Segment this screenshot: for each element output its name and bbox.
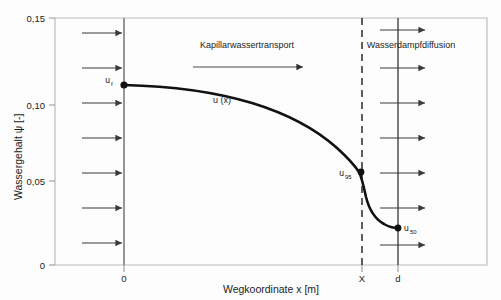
curve-u-of-x bbox=[124, 85, 398, 228]
zone-label-vapour-diffusion: Wasserdampfdiffusion bbox=[367, 40, 456, 50]
zone-label-capillary: Kapillarwassertransport bbox=[200, 40, 295, 50]
x-tick-label-X: X bbox=[359, 273, 366, 284]
x-axis-ticks bbox=[124, 265, 398, 272]
y-tick-label-010: 0,10 bbox=[27, 100, 46, 111]
data-point-u95-sublabel: 95 bbox=[345, 174, 352, 180]
data-point-uf-sublabel: f bbox=[111, 81, 113, 87]
data-point-u50-label: u bbox=[404, 223, 409, 233]
data-point-u95-label: u bbox=[339, 168, 344, 178]
plot-frame bbox=[55, 18, 487, 265]
figure-container: 0,15 0,10 0,05 0 Wassergehalt ψ [-] 0 X … bbox=[0, 0, 501, 300]
data-point-uf-label: u bbox=[105, 75, 110, 85]
y-axis-title: Wassergehalt ψ [-] bbox=[12, 113, 24, 200]
y-tick-label-005: 0,05 bbox=[27, 176, 46, 187]
data-point-u50-sublabel: 50 bbox=[410, 229, 417, 235]
x-tick-label-d: d bbox=[395, 273, 400, 284]
y-tick-label-0: 0 bbox=[40, 260, 45, 271]
flux-arrows-left bbox=[82, 33, 122, 243]
curve-label-u-of-x: u (x) bbox=[213, 95, 231, 105]
flux-arrows-right bbox=[380, 30, 425, 245]
x-tick-label-0: 0 bbox=[121, 273, 126, 284]
x-axis-title: Wegkoordinate x [m] bbox=[223, 283, 319, 295]
y-tick-label-015: 0,15 bbox=[27, 13, 46, 24]
y-axis-ticks bbox=[49, 18, 55, 265]
